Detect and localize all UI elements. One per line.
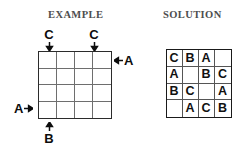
arrow-down-icon (90, 42, 99, 51)
clue-letter: C (89, 28, 98, 41)
example-grid-cell[interactable] (93, 102, 111, 119)
example-grid-cell[interactable] (75, 102, 93, 119)
solution-grid-cell: B (199, 67, 215, 84)
clue-letter: C (44, 28, 53, 41)
clue-left-row-4: A (14, 101, 33, 115)
example-grid-cell[interactable] (75, 69, 93, 86)
solution-grid-cell (215, 50, 231, 67)
clue-top-column-1: C (41, 28, 57, 51)
example-grid-cell[interactable] (39, 102, 57, 119)
example-grid-cell[interactable] (93, 52, 111, 69)
solution-grid-cell: B (215, 100, 231, 117)
example-grid-cell[interactable] (93, 85, 111, 102)
clue-bottom-column-1: B (41, 122, 57, 145)
solution-grid-cell: C (167, 50, 183, 67)
solution-grid-cell: A (199, 50, 215, 67)
solution-panel-title: SOLUTION (163, 9, 222, 20)
arrow-up-icon (45, 122, 54, 131)
solution-grid-cell: A (183, 100, 199, 117)
arrow-down-icon (45, 42, 54, 51)
solution-grid-cell (199, 84, 215, 101)
example-grid (38, 51, 112, 119)
clue-right-row-1: A (114, 53, 133, 67)
example-grid-cell[interactable] (39, 69, 57, 86)
solution-grid-cell: A (215, 84, 231, 101)
clue-letter: A (14, 102, 23, 115)
example-grid-cell[interactable] (57, 52, 75, 69)
arrow-left-icon (114, 56, 123, 65)
example-panel-title: EXAMPLE (48, 9, 103, 20)
example-grid-cell[interactable] (39, 85, 57, 102)
solution-grid-cell: C (183, 84, 199, 101)
solution-grid-cell: A (167, 67, 183, 84)
example-grid-cell[interactable] (57, 69, 75, 86)
clue-letter: A (124, 54, 133, 67)
example-grid-cell[interactable] (57, 102, 75, 119)
solution-grid-cell: C (199, 100, 215, 117)
arrow-right-icon (24, 104, 33, 113)
clue-letter: B (44, 132, 53, 145)
example-grid-cell[interactable] (75, 52, 93, 69)
solution-grid-cell: C (215, 67, 231, 84)
solution-grid-cell (167, 100, 183, 117)
example-grid-cell[interactable] (93, 69, 111, 86)
example-grid-cell[interactable] (39, 52, 57, 69)
solution-grid-cell: B (183, 50, 199, 67)
solution-grid-cell: B (167, 84, 183, 101)
example-grid-cell[interactable] (57, 85, 75, 102)
solution-grid-cell (183, 67, 199, 84)
clue-top-column-3: C (86, 28, 102, 51)
example-grid-cell[interactable] (75, 85, 93, 102)
solution-grid: C B A A B C B C A A C B (166, 49, 232, 118)
